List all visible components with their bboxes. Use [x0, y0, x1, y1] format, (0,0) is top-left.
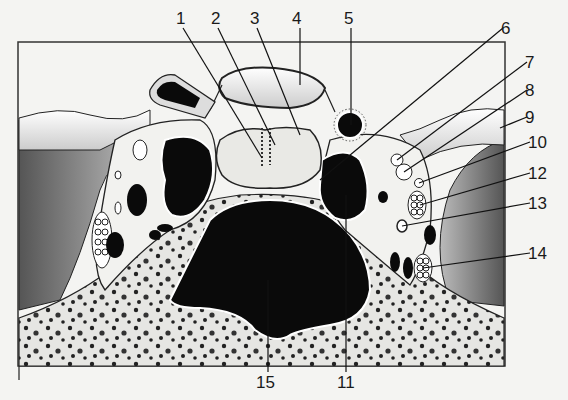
label-4: 4	[292, 10, 301, 27]
label-11: 11	[337, 374, 355, 391]
label-1: 1	[176, 10, 185, 27]
label-15: 15	[256, 374, 275, 391]
pituitary-gland	[216, 128, 321, 189]
cavernous-sinus-diagram	[0, 0, 568, 400]
vessel-5	[337, 112, 363, 138]
label-12: 12	[528, 165, 547, 182]
label-5: 5	[344, 10, 353, 27]
label-8: 8	[525, 82, 534, 99]
label-6: 6	[501, 20, 510, 37]
nerve-12-bundle	[408, 191, 426, 219]
label-3: 3	[250, 10, 259, 27]
label-13: 13	[528, 195, 547, 212]
label-9: 9	[525, 109, 534, 126]
label-14: 14	[528, 245, 547, 262]
label-7: 7	[525, 54, 534, 71]
right-internal-carotid-11	[320, 153, 368, 221]
label-10: 10	[528, 134, 547, 151]
label-2: 2	[211, 10, 220, 27]
